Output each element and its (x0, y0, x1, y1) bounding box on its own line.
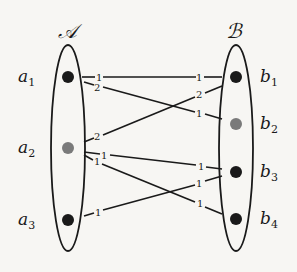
weight-a1-b2-to: 1 (196, 108, 202, 119)
node-b1 (230, 71, 242, 83)
label-b4: b4 (260, 208, 278, 231)
node-a1 (62, 71, 74, 83)
label-b2: b2 (260, 113, 278, 136)
node-b4 (230, 213, 242, 225)
edge-a3-b3 (84, 213, 94, 216)
set-b-label: ℬ (226, 19, 243, 43)
edge-a2-b3 (84, 152, 100, 154)
node-b2 (230, 118, 242, 130)
label-b3: b3 (260, 161, 278, 184)
weight-a3-b3-to: 1 (196, 178, 202, 189)
label-a3: a3 (18, 209, 35, 232)
edges: 1 1 2 1 2 2 1 1 1 1 1 1 (82, 72, 222, 218)
edge-a3-b3 (103, 185, 195, 210)
label-a1: a1 (18, 66, 35, 89)
weight-a2-b1-from: 2 (94, 131, 100, 142)
edge-a1-b2 (84, 82, 94, 85)
edge-a2-b4 (102, 164, 195, 202)
weight-a2-b4-from: 1 (94, 156, 100, 167)
weight-a2-b4-to: 1 (197, 198, 203, 209)
weight-a3-b3-from: 1 (95, 207, 101, 218)
label-b1: b1 (260, 66, 278, 89)
edge-a2-b3 (110, 155, 196, 165)
weight-a1-b1-to: 1 (196, 72, 202, 83)
node-b3 (230, 166, 242, 178)
weight-a2-b3-to: 1 (198, 161, 204, 172)
label-a2: a2 (18, 137, 35, 160)
edge-a2-b4 (205, 207, 222, 214)
set-a-label: 𝒜 (58, 19, 83, 43)
node-a3 (62, 214, 74, 226)
edge-a1-b2 (103, 87, 195, 112)
node-a2 (62, 142, 74, 154)
bipartite-diagram: 𝒜 ℬ 1 1 2 1 2 2 1 1 1 1 (0, 0, 297, 272)
weight-a1-b2-from: 2 (94, 82, 100, 93)
edge-a2-b1 (103, 97, 195, 135)
edge-a2-b1 (205, 86, 222, 93)
weight-a2-b1-to: 2 (196, 89, 202, 100)
weight-a2-b3-from: 1 (101, 150, 107, 161)
